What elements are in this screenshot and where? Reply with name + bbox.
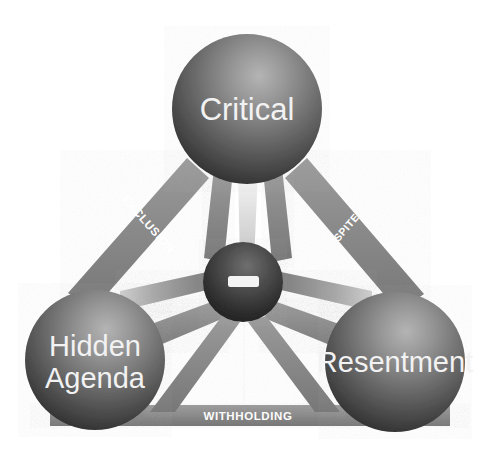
hidden-agenda-label-line1: Hidden — [49, 330, 141, 362]
spoke-critical-right — [263, 168, 292, 262]
triangle-diagram: EXCLUSION SPITE WITHHOLDING — [0, 0, 493, 461]
diagram-canvas: EXCLUSION SPITE WITHHOLDING — [0, 0, 493, 461]
edge-withholding-label: WITHHOLDING — [203, 410, 292, 422]
resentment-label: Resentment — [317, 346, 473, 378]
node-hidden-agenda[interactable]: Hidden Agenda — [25, 290, 165, 430]
critical-label: Critical — [200, 92, 295, 127]
node-center-hub[interactable] — [203, 242, 283, 322]
center-hub-dash-icon — [228, 276, 259, 287]
node-critical[interactable]: Critical — [172, 34, 322, 184]
hidden-agenda-label-line2: Agenda — [45, 362, 146, 394]
